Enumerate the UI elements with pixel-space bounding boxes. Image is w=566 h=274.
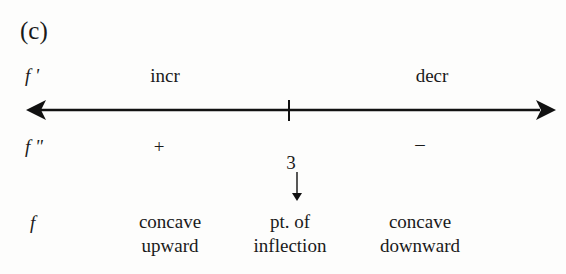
f-left-line-1: concave xyxy=(139,210,201,234)
f-row-label: f xyxy=(30,213,35,232)
tick-value-label: 3 xyxy=(286,153,296,172)
f-middle-line-1: pt. of xyxy=(254,210,327,234)
f-right-description: concave downward xyxy=(380,210,460,258)
f-double-prime-right-sign: – xyxy=(415,134,425,153)
f-middle-description: pt. of inflection xyxy=(254,210,327,258)
f-left-line-2: upward xyxy=(139,234,201,258)
f-left-description: concave upward xyxy=(139,210,201,258)
f-right-line-1: concave xyxy=(380,210,460,234)
f-right-line-2: downward xyxy=(380,234,460,258)
down-arrow-icon xyxy=(292,193,302,201)
f-double-prime-row-label: f " xyxy=(25,137,43,156)
f-double-prime-left-sign: + xyxy=(154,137,165,156)
f-middle-line-2: inflection xyxy=(254,234,327,258)
